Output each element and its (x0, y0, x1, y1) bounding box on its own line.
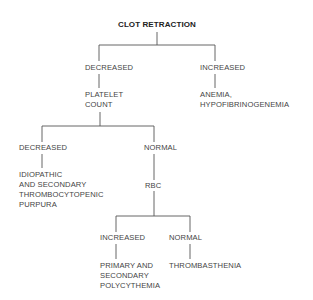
node-rbc: RBC (145, 181, 161, 191)
node-line: COUNT (85, 100, 123, 110)
node-clot-increased: INCREASED (200, 63, 245, 73)
node-line: PRIMARY AND (100, 261, 160, 271)
node-rbc-normal: NORMAL (169, 233, 202, 243)
diagram-title: CLOT RETRACTION (118, 20, 196, 30)
node-platelet-normal: NORMAL (144, 143, 177, 153)
node-platelet-count: PLATELET COUNT (85, 90, 123, 110)
node-rbc-increased: INCREASED (100, 233, 145, 243)
node-line: AND SECONDARY (19, 180, 104, 190)
node-line: THROMBOCYTOPENIC (19, 190, 104, 200)
node-line: POLYCYTHEMIA (100, 281, 160, 291)
node-line: ANEMIA, (200, 90, 289, 100)
node-clot-decreased: DECREASED (85, 63, 133, 73)
node-itp: IDIOPATHIC AND SECONDARY THROMBOCYTOPENI… (19, 170, 104, 210)
node-platelet-decreased: DECREASED (19, 143, 67, 153)
node-line: IDIOPATHIC (19, 170, 104, 180)
node-line: HYPOFIBRINOGENEMIA (200, 100, 289, 110)
node-line: PURPURA (19, 200, 104, 210)
node-polycythemia: PRIMARY AND SECONDARY POLYCYTHEMIA (100, 261, 160, 291)
node-thrombasthenia: THROMBASTHENIA (169, 261, 241, 271)
node-line: SECONDARY (100, 271, 160, 281)
node-anemia-hypofibrinogenemia: ANEMIA, HYPOFIBRINOGENEMIA (200, 90, 289, 110)
node-line: PLATELET (85, 90, 123, 100)
